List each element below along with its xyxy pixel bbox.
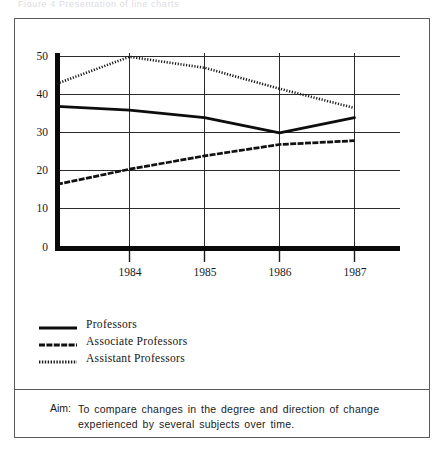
x-tick-1985: 1985 (182, 266, 228, 278)
series-line-assistant-professors (57, 57, 355, 108)
y-tick-30: 30 (22, 126, 48, 138)
y-tick-40: 40 (22, 88, 48, 100)
chart-canvas (55, 53, 400, 271)
y-tick-10: 10 (22, 202, 48, 214)
aim-label: Aim: (50, 402, 71, 414)
horizontal-gridlines (55, 57, 400, 209)
chart-legend: Professors Associate Professors Assistan… (39, 315, 369, 366)
x-tick-1984: 1984 (107, 266, 153, 278)
aim-description: To compare changes in the degree and dir… (78, 402, 403, 432)
legend-swatch-solid-icon (39, 319, 77, 329)
aim-section: Aim: To compare changes in the degree an… (50, 402, 403, 432)
figure-frame: 50 40 30 20 10 0 1984 1985 1986 1987 Pro… (14, 18, 430, 438)
legend-item-assistant-professors: Assistant Professors (39, 349, 369, 366)
x-tick-1987: 1987 (332, 266, 378, 278)
line-chart: 50 40 30 20 10 0 1984 1985 1986 1987 (55, 53, 400, 271)
y-tick-50: 50 (22, 50, 48, 62)
x-axis-ticks (130, 251, 355, 262)
page-header-text: Figure 4 Presentation of line charts (18, 0, 179, 7)
legend-item-associate-professors: Associate Professors (39, 332, 369, 349)
x-tick-1986: 1986 (257, 266, 303, 278)
y-tick-0: 0 (22, 241, 48, 253)
legend-label-assistant-professors: Assistant Professors (86, 352, 185, 364)
y-tick-20: 20 (22, 164, 48, 176)
legend-swatch-dashed-icon (39, 336, 77, 346)
legend-label-associate-professors: Associate Professors (86, 335, 188, 347)
series-line-professors (57, 106, 355, 133)
vertical-gridlines (130, 53, 355, 252)
series-line-associate-professors (57, 141, 355, 185)
legend-swatch-dotted-icon (39, 353, 77, 363)
aim-divider (15, 389, 429, 390)
legend-item-professors: Professors (39, 315, 369, 332)
legend-label-professors: Professors (86, 318, 137, 330)
